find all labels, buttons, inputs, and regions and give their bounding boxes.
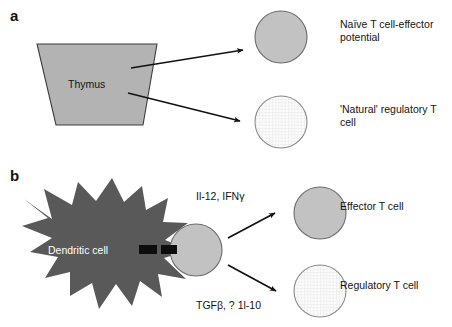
regulatory-t-cell-circle [294, 265, 346, 317]
thymus-text: Thymus [68, 78, 105, 90]
naive-t-cell-label: Naïve T cell-effector potential [340, 18, 452, 44]
synapse-dc-side [139, 245, 157, 254]
synapse-tcell-side [161, 245, 177, 254]
regulatory-t-cell-label: Regulatory T cell [340, 279, 450, 292]
figure-canvas [0, 0, 452, 327]
natural-treg-circle [255, 96, 307, 148]
panel-b-label: b [10, 167, 19, 184]
cytokine-label-effector: Il-12, IFNγ [196, 190, 244, 202]
cytokine-label-regulatory: TGFβ, ? 1l-10 [196, 299, 261, 311]
naive-t-cell-circle [255, 11, 307, 63]
t-cell-circle [170, 224, 222, 276]
panel-a-label: a [10, 7, 18, 24]
effector-t-cell-circle [294, 187, 346, 239]
natural-treg-label: 'Natural' regulatory T cell [340, 103, 452, 129]
dendritic-cell-text: Dendritic cell [48, 244, 108, 256]
effector-t-cell-label: Effector T cell [340, 200, 450, 213]
